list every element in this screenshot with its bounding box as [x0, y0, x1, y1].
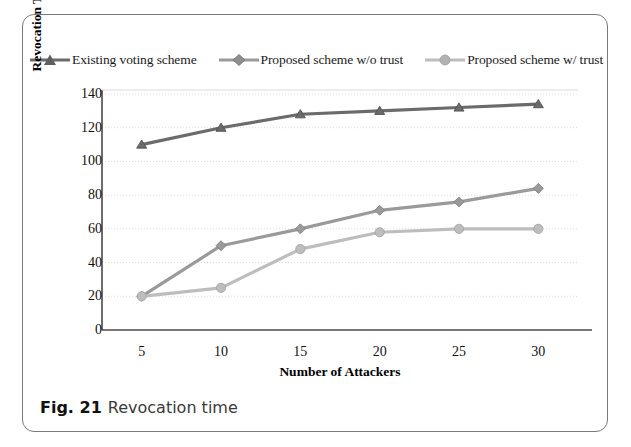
x-axis-tick-label: 20 — [360, 344, 400, 360]
legend-swatch-diamond-icon — [219, 53, 259, 67]
legend-item-proposed-scheme-wo-trust: Proposed scheme w/o trust — [219, 52, 404, 68]
x-axis-ticks: 51015202530 — [30, 78, 600, 378]
figure-number: Fig. 21 — [40, 398, 102, 417]
legend-swatch-circle-icon — [425, 53, 465, 67]
x-axis-tick-label: 5 — [122, 344, 162, 360]
legend-item-existing-voting-scheme: Existing voting scheme — [30, 52, 197, 68]
legend-label: Existing voting scheme — [72, 52, 197, 68]
x-axis-title: Number of Attackers — [100, 364, 580, 380]
x-axis-tick-label: 25 — [439, 344, 479, 360]
legend-label: Proposed scheme w/ trust — [467, 52, 603, 68]
x-axis-tick-label: 30 — [518, 344, 558, 360]
line-chart: 020406080100120140 51015202530 — [30, 78, 600, 378]
figure-caption: Fig. 21Revocation time — [40, 398, 238, 417]
legend-item-proposed-scheme-w-trust: Proposed scheme w/ trust — [425, 52, 603, 68]
x-axis-tick-label: 10 — [201, 344, 241, 360]
legend-label: Proposed scheme w/o trust — [261, 52, 404, 68]
x-axis-tick-label: 15 — [280, 344, 320, 360]
figure-caption-text: Revocation time — [108, 398, 238, 417]
y-axis-title: Revocation Time (sec) — [29, 0, 45, 108]
chart-legend: Existing voting scheme Proposed scheme w… — [30, 48, 610, 72]
